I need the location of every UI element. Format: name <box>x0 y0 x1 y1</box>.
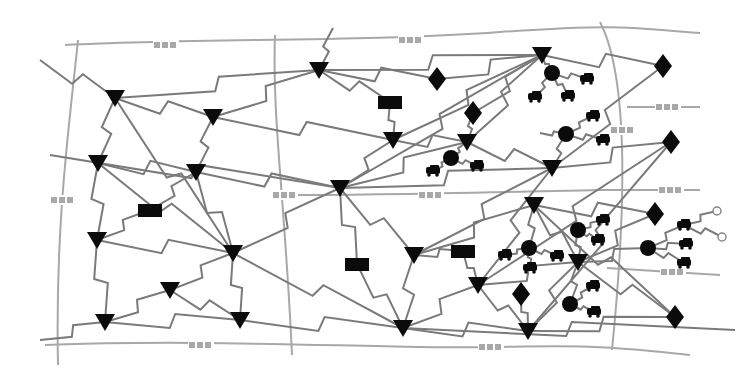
gateway-node-icon <box>378 96 402 109</box>
access-point-node-icon <box>666 305 684 329</box>
vehicle-node-icon <box>586 110 600 122</box>
wireless-link <box>403 285 478 328</box>
wireless-link <box>240 317 403 331</box>
wireless-link <box>403 255 414 328</box>
road-marker <box>655 102 681 112</box>
vehicle-node-icon <box>523 262 537 274</box>
vehicle-node-icon <box>561 90 575 102</box>
road-grid <box>45 22 720 365</box>
network-diagram <box>0 0 749 382</box>
road-marker <box>418 190 444 200</box>
wireless-links <box>40 28 735 340</box>
cluster-head-node-icon <box>544 65 560 81</box>
gateway-node-icon <box>451 245 475 258</box>
wireless-link <box>97 240 233 253</box>
cluster-head-node-icon <box>562 296 578 312</box>
road-marker <box>153 40 179 50</box>
cluster-head-node-icon <box>558 126 574 142</box>
cluster-head-node-icon <box>443 150 459 166</box>
wireless-link <box>98 161 196 174</box>
road-marker <box>398 35 424 45</box>
wireless-link <box>91 163 103 240</box>
wireless-link <box>213 70 319 117</box>
access-point-node-icon <box>654 54 672 78</box>
access-point-node-icon <box>428 67 446 91</box>
wireless-link <box>105 290 170 322</box>
wireless-link <box>196 117 213 172</box>
wireless-link <box>98 98 115 163</box>
wireless-link <box>231 253 242 320</box>
gateway-node-icon <box>138 204 162 217</box>
vehicle-node-icon <box>679 238 693 250</box>
road-marker <box>50 195 76 205</box>
vehicle-node-icon <box>596 134 610 146</box>
endpoint-icon <box>713 207 721 215</box>
cluster-head-node-icon <box>521 240 537 256</box>
wireless-link <box>357 264 403 328</box>
vehicle-node-icon <box>580 73 594 85</box>
road-marker <box>188 340 214 350</box>
gateway-node-icon <box>345 258 369 271</box>
access-point-node-icon <box>646 202 664 226</box>
wireless-link <box>196 172 340 188</box>
vehicle-node-icon <box>586 280 600 292</box>
wireless-link <box>170 253 233 290</box>
road-marker <box>658 185 684 195</box>
wireless-link <box>542 54 663 67</box>
vehicle-node-icon <box>426 165 440 177</box>
road-marker <box>272 190 298 200</box>
wireless-link <box>578 214 655 262</box>
wireless-link <box>40 322 105 340</box>
vehicle-node-icon <box>498 249 512 261</box>
wireless-link <box>340 188 414 255</box>
wireless-link <box>403 322 735 336</box>
access-point-node-icon <box>464 101 482 125</box>
wireless-link <box>196 172 233 253</box>
wireless-link <box>552 66 663 168</box>
vehicle-node-icon <box>677 219 691 231</box>
wireless-link <box>94 240 108 322</box>
wireless-link <box>233 253 403 328</box>
wireless-link <box>478 168 552 285</box>
cluster-head-node-icon <box>640 240 656 256</box>
access-point-node-icon <box>512 282 530 306</box>
endpoint-icon <box>718 233 726 241</box>
router-node-icon <box>457 134 477 151</box>
vehicle-node-icon <box>528 91 542 103</box>
wireless-link <box>115 98 213 117</box>
router-node-icon <box>223 245 243 262</box>
vehicle-node-icon <box>587 306 601 318</box>
router-node-icon <box>468 277 488 294</box>
road <box>45 343 690 355</box>
router-node-icon <box>160 282 180 299</box>
wireless-link <box>170 290 240 320</box>
vehicle-node-icon <box>550 250 564 262</box>
wireless-link <box>115 70 319 98</box>
road-marker <box>660 267 686 277</box>
wireless-link <box>528 317 675 331</box>
wireless-link <box>40 60 115 98</box>
cluster-head-node-icon <box>570 222 586 238</box>
road-marker <box>610 125 636 135</box>
wireless-link <box>437 55 542 79</box>
vehicle-node-icon <box>596 214 610 226</box>
wireless-link <box>534 203 655 217</box>
road-marker <box>478 342 504 352</box>
wireless-link <box>213 117 393 140</box>
